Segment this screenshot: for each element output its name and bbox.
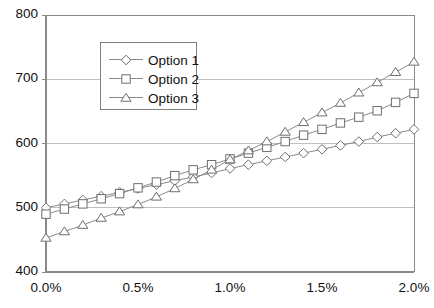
y-tick-label-700: 700 — [0, 70, 38, 85]
legend-marker-square-icon — [109, 72, 143, 86]
y-tick-label-800: 800 — [0, 6, 38, 21]
data-point-marker — [152, 178, 160, 186]
x-tick-label-2-0pct: 2.0% — [384, 280, 434, 295]
data-point-marker — [115, 189, 123, 197]
legend-marker-diamond-icon — [109, 53, 143, 67]
legend-sample-marker — [119, 53, 133, 67]
x-tick-label-1-0pct: 1.0% — [200, 280, 260, 295]
legend-item-option-2[interactable]: Option 2 — [109, 69, 199, 89]
x-tick-label-1-5pct: 1.5% — [292, 280, 352, 295]
data-point-marker — [318, 125, 326, 133]
legend-item-option-3[interactable]: Option 3 — [109, 88, 199, 108]
legend-marker-triangle-icon — [109, 91, 143, 105]
data-point-marker — [97, 195, 105, 203]
data-point-marker — [391, 98, 399, 106]
data-point-marker — [373, 107, 381, 115]
legend-item-option-1[interactable]: Option 1 — [109, 50, 199, 70]
x-tick-label-0-0pct: 0.0% — [16, 280, 76, 295]
legend-sample-marker — [119, 72, 133, 86]
y-tick-label-400: 400 — [0, 263, 38, 278]
data-point-marker — [410, 89, 418, 97]
data-point-marker — [42, 210, 50, 218]
legend-item-label: Option 2 — [148, 72, 199, 87]
y-tick-label-600: 600 — [0, 135, 38, 150]
data-point-marker — [171, 171, 179, 179]
chart-legend: Option 1Option 2Option 3 — [100, 42, 197, 110]
data-point-marker — [79, 200, 87, 208]
legend-item-label: Option 1 — [148, 53, 199, 68]
x-tick-label-0-5pct: 0.5% — [108, 280, 168, 295]
legend-item-label: Option 3 — [148, 91, 199, 106]
data-point-marker — [299, 131, 307, 139]
data-point-marker — [189, 166, 197, 174]
data-point-marker — [336, 119, 344, 127]
legend-sample-marker — [119, 91, 133, 105]
data-point-marker — [60, 205, 68, 213]
data-point-marker — [355, 113, 363, 121]
data-point-marker — [134, 184, 142, 192]
data-point-marker — [281, 137, 289, 145]
y-tick-label-500: 500 — [0, 199, 38, 214]
